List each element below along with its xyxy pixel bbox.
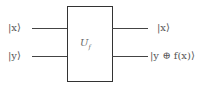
output-wire-y — [112, 56, 148, 57]
input-label-x: |x⟩ — [8, 22, 21, 34]
gate-label: Uf — [80, 37, 91, 50]
input-wire-y — [32, 56, 68, 57]
output-label-y: |y ⊕ f(x)⟩ — [150, 50, 195, 62]
output-wire-x — [112, 28, 148, 29]
input-label-y: |y⟩ — [8, 50, 21, 62]
output-label-x: |x⟩ — [157, 22, 170, 34]
input-wire-x — [32, 28, 68, 29]
